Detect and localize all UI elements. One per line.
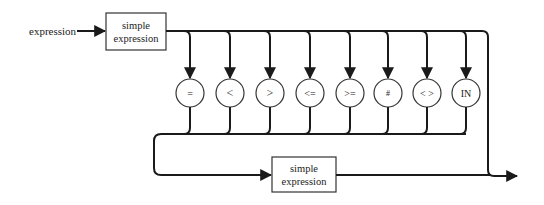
- svg-text:<: <: [227, 86, 234, 100]
- top-simple-expression-box: simple expression: [106, 13, 166, 50]
- operator-circles: = < > <= >= # < > IN: [176, 79, 480, 107]
- operator-equals: =: [176, 79, 204, 107]
- operator-greater-than: >: [256, 79, 284, 107]
- operator-greater-equal: >=: [336, 79, 364, 107]
- operator-hash: #: [374, 79, 402, 107]
- operator-less-than: <: [216, 79, 244, 107]
- bottom-simple-expression-box: simple expression: [272, 157, 336, 192]
- bottom-box-line1: simple: [290, 163, 318, 174]
- merge-branches: [184, 107, 466, 134]
- svg-text:>=: >=: [344, 88, 356, 99]
- svg-text:IN: IN: [461, 88, 472, 99]
- operator-less-equal: <=: [296, 79, 324, 107]
- top-box-line2: expression: [114, 33, 160, 44]
- syntax-diagram: expression simple expression = < >: [0, 0, 544, 205]
- svg-text:<=: <=: [304, 88, 316, 99]
- entry-label: expression: [29, 25, 77, 37]
- operator-branches: [184, 31, 466, 78]
- svg-text:#: #: [386, 89, 390, 98]
- top-box-line1: simple: [122, 20, 150, 31]
- svg-text:=: =: [187, 88, 193, 99]
- bottom-box-line2: expression: [282, 176, 328, 187]
- operator-in: IN: [452, 79, 480, 107]
- svg-text:< >: < >: [420, 88, 434, 99]
- operator-not-equal: < >: [413, 79, 441, 107]
- svg-text:>: >: [267, 86, 274, 100]
